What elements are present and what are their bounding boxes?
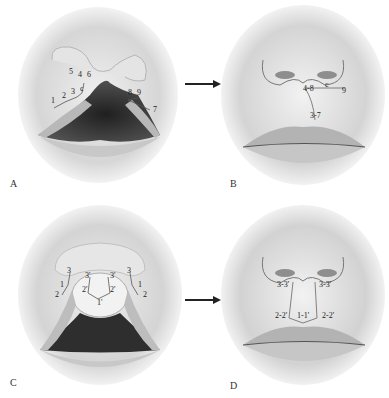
cleft-lip-illustration-a	[10, 5, 185, 195]
point-label-2prime-right: 2'	[110, 286, 115, 294]
panel-d: 3-3' 3-3' 2-2' 1-1' 2-2' D	[215, 205, 389, 395]
point-label-3prime-right: 3'	[110, 272, 115, 280]
panel-letter-d: D	[230, 380, 237, 391]
panel-letter-b: B	[230, 178, 237, 189]
panel-letter-c: C	[10, 377, 17, 388]
repaired-lip-illustration-b	[215, 5, 389, 195]
point-label-3-7: 3-7	[310, 112, 321, 120]
point-label-2-right: 2	[143, 291, 147, 299]
point-label-c: c	[325, 81, 329, 89]
point-label-4: 4	[78, 71, 82, 79]
point-label-1prime: 1'	[97, 299, 102, 307]
point-label-3-3prime-left: 3-3'	[277, 281, 289, 289]
repaired-bilateral-lip-illustration-d	[215, 205, 389, 395]
point-label-3-right: 3	[127, 267, 131, 275]
point-label-2-left: 2	[55, 291, 59, 299]
point-label-5: 5	[69, 68, 73, 76]
point-label-1-right: 1	[138, 281, 142, 289]
point-label-1-left: 1	[60, 281, 64, 289]
point-label-3prime-left: 3'	[85, 272, 90, 280]
point-label-2: 2	[62, 92, 66, 100]
point-label-3: 3	[71, 88, 75, 96]
point-label-2-2prime-left: 2-2'	[275, 312, 287, 320]
point-label-4-8: 4-8	[303, 85, 314, 93]
point-label-6: 6	[87, 71, 91, 79]
point-label-c: c	[80, 85, 84, 93]
point-label-7: 7	[153, 106, 157, 114]
point-label-8: 8	[128, 89, 132, 97]
point-label-2-2prime-right: 2-2'	[322, 312, 334, 320]
point-label-9: 9	[137, 89, 141, 97]
point-label-3-left: 3	[67, 267, 71, 275]
point-label-3-3prime-right: 3-3'	[319, 281, 331, 289]
panel-letter-a: A	[10, 178, 17, 189]
panel-b: 4-8 c 9 3-7 B	[215, 5, 389, 195]
point-label-2prime-left: 2'	[82, 286, 87, 294]
point-label-1-1prime: 1-1'	[297, 312, 309, 320]
point-label-1: 1	[51, 97, 55, 105]
point-label-9: 9	[342, 87, 346, 95]
panel-a: 1 2 3 c 5 4 6 8 9 7 A	[10, 5, 185, 195]
panel-c: 3 1 2 3' 2' 1' 3' 2' 3 1 2 C	[10, 205, 185, 395]
